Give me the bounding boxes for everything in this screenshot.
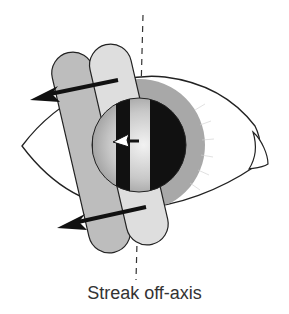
figure-caption: Streak off-axis (0, 283, 289, 304)
streak-retinoscopy-diagram (0, 0, 289, 314)
